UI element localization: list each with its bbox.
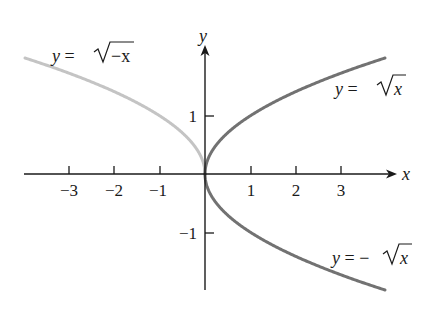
svg-text:y =: y = (50, 46, 79, 66)
label-sqrt-neg-x: y = −x (50, 42, 134, 66)
y-tick-label: −1 (179, 224, 197, 243)
x-tick-label: −3 (60, 181, 78, 200)
svg-text:x: x (393, 79, 402, 99)
curve-sqrt-x (205, 58, 385, 174)
function-plot: x y −3 −2 −1 1 2 3 1 −1 y = −x y = (0, 0, 441, 311)
label-neg-sqrt-x: y = − x (330, 244, 412, 268)
x-tick-labels: −3 −2 −1 1 2 3 (60, 181, 345, 200)
label-sqrt-x: y = x (333, 75, 406, 99)
curve-sqrt-neg-x (25, 58, 205, 174)
svg-text:x: x (399, 248, 408, 268)
x-tick-label: 1 (247, 181, 256, 200)
x-tick-label: −1 (149, 181, 167, 200)
x-tick-label: −2 (105, 181, 123, 200)
y-tick-label: 1 (189, 107, 198, 126)
svg-text:−x: −x (111, 46, 130, 66)
x-axis-label: x (401, 164, 410, 184)
y-axis-label: y (197, 26, 207, 46)
svg-text:y =: y = (333, 79, 362, 99)
svg-text:y = −: y = − (330, 248, 369, 268)
x-tick-label: 3 (337, 181, 346, 200)
x-tick-label: 2 (292, 181, 301, 200)
